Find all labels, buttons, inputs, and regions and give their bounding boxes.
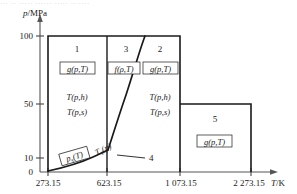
x-tick-label-1073: 1 073.15: [165, 178, 197, 188]
region-1-backward-ph: T(p,h): [66, 92, 87, 102]
figure-screenshot: ··· ·· ····· ······ ····· ·· ···· 100 50…: [0, 0, 297, 194]
x-tick-label-623: 623.15: [97, 178, 122, 188]
region-1-equation: g(p,T): [67, 64, 88, 74]
region-3-equation: f(ρ,T): [115, 64, 134, 74]
x-axis-arrow: [270, 169, 278, 175]
region-1-backward-ps: T(p,s): [67, 107, 87, 117]
region-2-backward-ph: T(p,h): [149, 92, 170, 102]
x-tick-label-2273: 2 273.15: [233, 178, 265, 188]
region-1-group: 1 g(p,T) T(p,h) T(p,s): [60, 44, 95, 117]
region-2-equation: g(p,T): [150, 64, 171, 74]
region-1-number: 1: [75, 44, 80, 54]
y-axis-title: p/MPa: [22, 8, 47, 18]
region-5-group: 5 g(p,T): [197, 114, 232, 147]
y-tick-label-100: 100: [20, 31, 34, 41]
region-4-number: 4: [149, 153, 154, 163]
y-tick-label-0: 0: [29, 167, 34, 177]
y-tick-label-50: 50: [24, 99, 34, 109]
region-5-number: 5: [213, 114, 218, 124]
region-2-backward-ps: T(p,s): [150, 107, 170, 117]
region-5-equation: g(p,T): [204, 137, 225, 147]
region-2-number: 2: [158, 44, 163, 54]
iapws-region-diagram: 100 50 10 0 273.15 623.15 1 073.15 2 273…: [0, 0, 297, 194]
x-tick-group: 273.15 623.15 1 073.15 2 273.15: [36, 168, 266, 188]
x-tick-label-273: 273.15: [36, 178, 61, 188]
region-3-number: 3: [124, 44, 129, 54]
region-4-leader-line: [117, 155, 145, 158]
region-3-group: 3 f(ρ,T): [108, 44, 140, 74]
x-axis-title: T/K: [271, 178, 286, 188]
y-tick-label-10: 10: [24, 153, 34, 163]
region-2-group: 2 g(p,T) T(p,h) T(p,s): [143, 44, 178, 117]
